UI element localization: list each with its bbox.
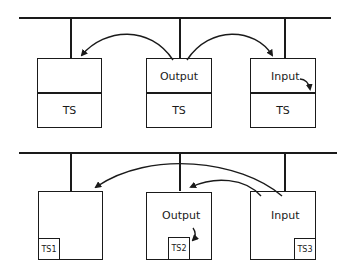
arrow-output-to-right (187, 34, 272, 60)
node-output-label: Output (162, 209, 200, 222)
top-node-middle: Output TS (146, 58, 212, 128)
node-ts-label: TS (38, 94, 101, 127)
node-ts-label: TS (251, 94, 315, 127)
node-input-label: Input (251, 59, 315, 93)
bottom-bus-line (19, 152, 337, 154)
bottom-drop-line-left (70, 152, 72, 191)
bottom-drop-line-right (284, 152, 286, 191)
bottom-drop-line-middle (179, 152, 181, 191)
top-drop-line-left (70, 17, 72, 58)
top-node-right: Input TS (250, 58, 316, 128)
ts3-inset: TS3 (294, 238, 316, 260)
bottom-node-left: TS1 (38, 191, 103, 260)
ts1-inset: TS1 (38, 238, 60, 260)
bottom-node-right: Input TS3 (250, 191, 316, 260)
top-drop-line-middle (179, 17, 181, 58)
top-node-left: TS (37, 58, 102, 128)
node-input-label: Input (271, 209, 299, 222)
arrow-output-to-left (82, 34, 173, 60)
ts2-inset: TS2 (168, 237, 190, 260)
top-drop-line-right (284, 17, 286, 58)
node-output-label: Output (147, 59, 211, 93)
node-top-section (38, 59, 101, 93)
bottom-node-middle: Output TS2 (146, 192, 212, 260)
node-ts-label: TS (147, 94, 211, 127)
